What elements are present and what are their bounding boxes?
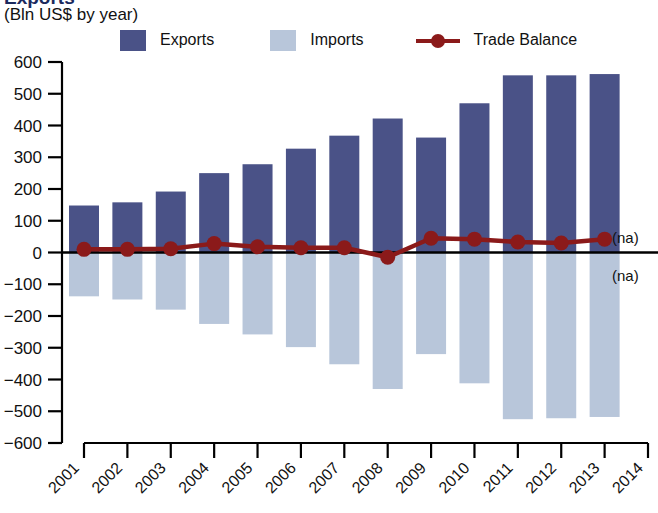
bar-exports-2012 bbox=[546, 75, 576, 252]
y-tick-label--400: −400 bbox=[4, 371, 42, 390]
bar-imports-2009 bbox=[416, 253, 446, 355]
bar-imports-2006 bbox=[286, 253, 316, 348]
annotation-na-top: (na) bbox=[612, 229, 639, 246]
trade-balance-point-2013 bbox=[597, 232, 612, 247]
bar-imports-2011 bbox=[503, 253, 533, 420]
x-tick-label-2001: 2001 bbox=[45, 459, 82, 496]
bar-exports-2006 bbox=[286, 149, 316, 253]
x-tick-label-2010: 2010 bbox=[435, 459, 472, 496]
y-tick-label--200: −200 bbox=[4, 307, 42, 326]
bar-imports-2001 bbox=[69, 253, 99, 297]
x-tick-label-2007: 2007 bbox=[305, 459, 342, 496]
y-tick-label--500: −500 bbox=[4, 402, 42, 421]
y-tick-label-0: 0 bbox=[33, 244, 42, 263]
y-tick-label-200: 200 bbox=[14, 180, 42, 199]
trade-balance-point-2010 bbox=[467, 232, 482, 247]
bar-exports-2007 bbox=[329, 136, 359, 253]
bar-imports-2007 bbox=[329, 253, 359, 365]
x-tick-label-2012: 2012 bbox=[522, 459, 559, 496]
bar-exports-2005 bbox=[243, 164, 273, 252]
bar-imports-2003 bbox=[156, 253, 186, 310]
trade-balance-point-2003 bbox=[163, 241, 178, 256]
y-tick-label--300: −300 bbox=[4, 339, 42, 358]
x-tick-label-2002: 2002 bbox=[88, 459, 125, 496]
bar-imports-2010 bbox=[459, 253, 489, 384]
bar-imports-2004 bbox=[199, 253, 229, 324]
chart-plot-area: 6005004003002001000−100−200−300−400−500−… bbox=[0, 0, 658, 513]
x-tick-label-2014: 2014 bbox=[609, 459, 646, 496]
y-tick-label--100: −100 bbox=[4, 275, 42, 294]
chart-svg: 6005004003002001000−100−200−300−400−500−… bbox=[0, 0, 658, 513]
bar-imports-2012 bbox=[546, 253, 576, 419]
bar-imports-2002 bbox=[112, 253, 142, 300]
x-tick-label-2005: 2005 bbox=[218, 459, 255, 496]
x-tick-label-2006: 2006 bbox=[262, 459, 299, 496]
x-tick-label-2008: 2008 bbox=[349, 459, 386, 496]
y-tick-label-300: 300 bbox=[14, 148, 42, 167]
y-tick-label-600: 600 bbox=[14, 53, 42, 72]
y-tick-label-100: 100 bbox=[14, 212, 42, 231]
y-tick-label-400: 400 bbox=[14, 117, 42, 136]
bar-imports-2005 bbox=[243, 253, 273, 335]
bar-exports-2008 bbox=[373, 119, 403, 253]
trade-balance-point-2006 bbox=[293, 240, 308, 255]
x-tick-label-2013: 2013 bbox=[566, 459, 603, 496]
trade-balance-point-2001 bbox=[77, 242, 92, 257]
trade-balance-point-2008 bbox=[380, 250, 395, 265]
y-tick-label-500: 500 bbox=[14, 85, 42, 104]
trade-balance-point-2009 bbox=[424, 231, 439, 246]
x-tick-label-2004: 2004 bbox=[175, 459, 212, 496]
y-tick-label--600: −600 bbox=[4, 434, 42, 453]
trade-balance-point-2004 bbox=[207, 236, 222, 251]
annotation-na-bottom: (na) bbox=[612, 267, 639, 284]
trade-balance-point-2005 bbox=[250, 239, 265, 254]
trade-balance-point-2012 bbox=[554, 235, 569, 250]
bar-exports-2011 bbox=[503, 75, 533, 252]
x-tick-label-2009: 2009 bbox=[392, 459, 429, 496]
bar-exports-2010 bbox=[459, 103, 489, 252]
trade-balance-point-2007 bbox=[337, 240, 352, 255]
trade-balance-point-2002 bbox=[120, 242, 135, 257]
x-tick-label-2003: 2003 bbox=[132, 459, 169, 496]
x-tick-label-2011: 2011 bbox=[480, 459, 516, 495]
bar-exports-2013 bbox=[590, 74, 620, 252]
trade-balance-point-2011 bbox=[510, 235, 525, 250]
bar-imports-2008 bbox=[373, 253, 403, 390]
